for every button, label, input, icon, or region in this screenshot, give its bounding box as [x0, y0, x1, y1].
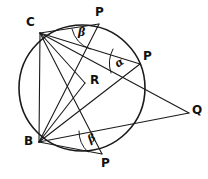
- point-label-p-bottom: P: [101, 157, 110, 169]
- geometry-figure: C P P P B R Q β α β: [0, 0, 208, 179]
- point-label-p-top: P: [95, 6, 104, 18]
- angle-label-beta-top: β: [78, 27, 85, 38]
- point-label-b: B: [24, 135, 33, 147]
- segment-b-r: [39, 83, 85, 142]
- point-label-c: C: [26, 16, 35, 28]
- point-label-r: R: [90, 74, 99, 86]
- point-label-q: Q: [192, 104, 202, 116]
- segment-b-q: [39, 113, 189, 142]
- main-circle: [19, 25, 145, 151]
- segment-c-q: [40, 33, 189, 113]
- chord-cb: [39, 33, 40, 142]
- chord-c-p1: [40, 24, 99, 33]
- point-label-p-right: P: [143, 50, 152, 62]
